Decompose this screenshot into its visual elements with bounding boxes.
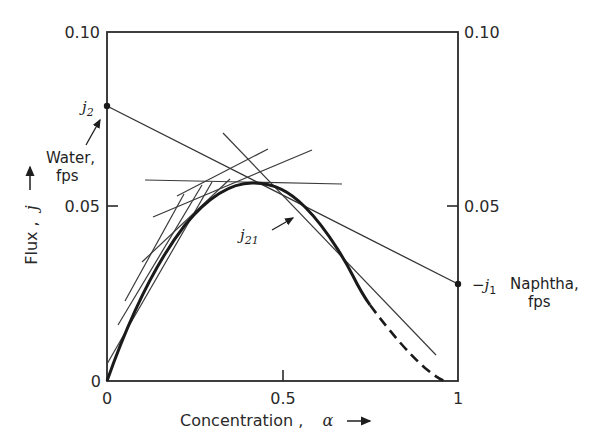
y-tick-label-right-005: 0.05 <box>464 197 500 216</box>
svg-text:Flux , j: Flux , j <box>22 205 41 265</box>
x-tick-label-1: 1 <box>453 389 463 408</box>
j21-arrow-icon <box>272 218 293 230</box>
water-unit: fps <box>56 167 79 185</box>
water-arrow-icon <box>86 120 100 145</box>
water-label: Water, <box>46 149 95 167</box>
j2-label: j2 <box>79 98 94 119</box>
y-tick-label-left-010: 0.10 <box>64 23 100 42</box>
x-axis-title: Concentration , α <box>180 411 333 430</box>
y-tick-label-right-010: 0.10 <box>464 23 500 42</box>
j21-curve-dashed <box>370 305 446 381</box>
plot-frame <box>107 32 458 381</box>
x-tick-label-0: 0 <box>102 389 112 408</box>
naphtha-unit: fps <box>528 293 551 311</box>
j21-curve-solid <box>107 183 370 381</box>
j1-point <box>455 281 461 287</box>
y-axis-title: Flux , j <box>22 205 41 265</box>
flux-concentration-chart: 0.10 0.05 0 0.10 0.05 0 0.5 1 Concentrat… <box>0 0 605 441</box>
j1-label: −j1 <box>472 276 496 297</box>
j2-point <box>104 103 110 109</box>
x-tick-label-05: 0.5 <box>270 389 295 408</box>
j21-label: j21 <box>237 226 259 247</box>
y-tick-label-left-005: 0.05 <box>64 197 100 216</box>
y-tick-label-left-0: 0 <box>91 372 101 391</box>
naphtha-label: Naphtha, <box>510 275 579 293</box>
alpha-symbol: α <box>322 411 333 430</box>
